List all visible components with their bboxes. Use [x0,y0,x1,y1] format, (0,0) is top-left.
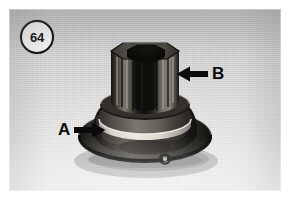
figure-panel: A B 64 [0,0,291,207]
callout-a: A [58,121,106,138]
arrow-left-icon [176,66,208,82]
figure-number-text: 64 [30,30,44,43]
callout-b: B [176,65,224,82]
callout-b-label: B [212,65,224,82]
photograph: A B 64 [9,9,281,191]
figure-number-badge: 64 [20,20,54,54]
callout-a-label: A [58,121,70,138]
arrow-right-icon [74,122,106,138]
